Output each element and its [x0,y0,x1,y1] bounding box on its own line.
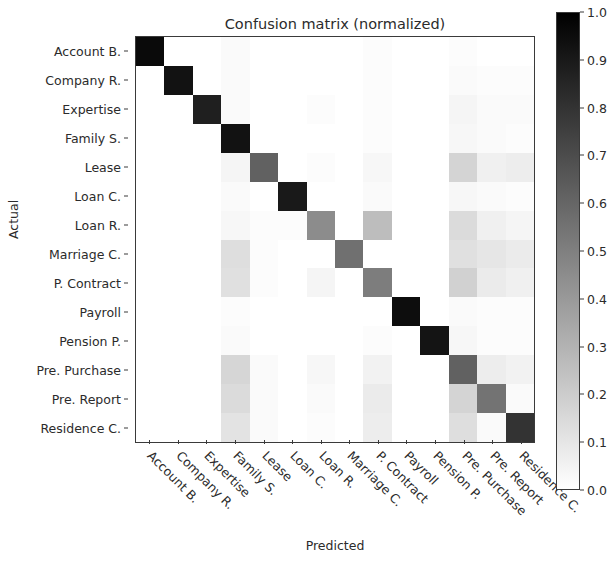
x-tick-mark [464,440,465,444]
matrix-cell [136,153,164,182]
matrix-cell [420,240,448,269]
y-tick-label: Pre. Purchase [36,363,121,378]
matrix-cell [307,240,335,269]
y-tick-label: Family S. [65,130,121,145]
matrix-cell [278,326,306,355]
y-tick-label: Pension P. [59,334,121,349]
matrix-cell [221,268,249,297]
colorbar-tick-mark [580,155,584,156]
matrix-cell [278,37,306,66]
colorbar-tick-label: 0.8 [587,100,607,115]
matrix-cell [335,297,363,326]
matrix-cell [164,182,192,211]
x-tick-mark [492,440,493,444]
matrix-cell [250,326,278,355]
matrix-cell [420,355,448,384]
matrix-cell [307,355,335,384]
matrix-cell [193,95,221,124]
matrix-cell [420,211,448,240]
matrix-cell [335,413,363,442]
matrix-cell [278,95,306,124]
matrix-cell [477,95,505,124]
colorbar-tick-label: 0.1 [587,435,607,450]
matrix-cell [392,37,420,66]
y-tick-mark [124,370,128,371]
y-tick-label: Lease [85,159,121,174]
matrix-cell [506,37,534,66]
x-tick-mark [264,440,265,444]
x-tick-mark [378,440,379,444]
x-tick-mark [406,440,407,444]
matrix-cell [250,182,278,211]
matrix-cell [420,95,448,124]
matrix-cell [420,384,448,413]
colorbar-tick-label: 0.6 [587,196,607,211]
matrix-cell [363,182,391,211]
colorbar-tick-label: 0.3 [587,339,607,354]
matrix-cell [477,240,505,269]
matrix-cell [250,211,278,240]
matrix-cell [477,66,505,95]
colorbar-tick-label: 0.9 [587,52,607,67]
matrix-cell [221,37,249,66]
matrix-cell [392,268,420,297]
matrix-cell [449,95,477,124]
matrix-cell [392,66,420,95]
matrix-cell [307,95,335,124]
matrix-cell [449,153,477,182]
matrix-cell [392,413,420,442]
matrix-cell [221,355,249,384]
matrix-cell [193,182,221,211]
colorbar-tick-mark [580,59,584,60]
y-axis-tick-labels: Account B.Company R.ExpertiseFamily S.Le… [0,36,128,443]
matrix-cell [449,211,477,240]
matrix-cell [477,182,505,211]
matrix-cell [449,37,477,66]
matrix-cell [136,384,164,413]
matrix-cell [193,326,221,355]
matrix-cell [136,211,164,240]
matrix-cell [193,124,221,153]
matrix-cell [420,297,448,326]
matrix-cell [164,95,192,124]
colorbar: 1.00.90.80.70.60.50.40.30.20.10.0 [556,12,580,490]
matrix-cell [278,182,306,211]
x-tick-mark [235,440,236,444]
colorbar-tick-mark [580,394,584,395]
colorbar-tick-mark [580,298,584,299]
matrix-cell [164,268,192,297]
matrix-cell [506,297,534,326]
matrix-cell [250,95,278,124]
matrix-cell [477,211,505,240]
matrix-cell [363,268,391,297]
matrix-cell [193,268,221,297]
y-tick-mark [124,399,128,400]
y-tick-mark [124,283,128,284]
matrix-cell [477,413,505,442]
y-tick-mark [124,50,128,51]
matrix-cell [363,37,391,66]
matrix-cell [250,355,278,384]
x-tick-mark [178,440,179,444]
x-axis-tick-labels: Account B.Company R.ExpertiseFamily S.Le… [135,444,535,534]
colorbar-tick-mark [580,12,584,13]
matrix-cell [136,95,164,124]
x-tick-mark [149,440,150,444]
matrix-cell [307,211,335,240]
matrix-cell [278,384,306,413]
matrix-cell [449,326,477,355]
matrix-cell [250,124,278,153]
matrix-cell [278,211,306,240]
matrix-cell [193,211,221,240]
matrix-cell [477,153,505,182]
matrix-cell [250,297,278,326]
matrix-cell [136,240,164,269]
matrix-cell [449,297,477,326]
matrix-cell [392,124,420,153]
y-tick-mark [124,137,128,138]
matrix-cell [193,240,221,269]
colorbar-gradient [556,12,580,490]
matrix-cell [164,326,192,355]
y-tick-mark [124,341,128,342]
matrix-cell [221,384,249,413]
